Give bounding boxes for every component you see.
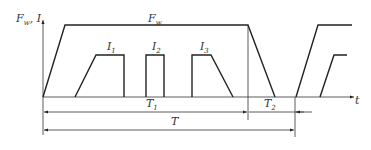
current-3-label: I3 — [199, 40, 209, 55]
t-label: T — [171, 115, 180, 128]
current-2-label: I2 — [151, 40, 161, 55]
y-axis-label: Fw, I — [15, 12, 42, 27]
current-pulse-next-cycle — [320, 55, 347, 97]
t2-label: T2 — [264, 97, 276, 112]
t1-label: T1 — [146, 97, 158, 112]
force-curve — [43, 25, 275, 97]
current-pulse-1 — [75, 55, 124, 97]
current-pulse-2 — [146, 55, 164, 97]
welding-cycle-diagram: Fw, I t Fw I1 I2 I3 T1 T2 T — [0, 0, 371, 150]
current-pulse-3 — [192, 55, 233, 97]
force-curve-label: Fw — [147, 12, 162, 27]
current-1-label: I1 — [106, 40, 116, 55]
x-axis-label: t — [355, 94, 360, 107]
diagram-canvas: Fw, I t Fw I1 I2 I3 T1 T2 T — [0, 0, 371, 150]
